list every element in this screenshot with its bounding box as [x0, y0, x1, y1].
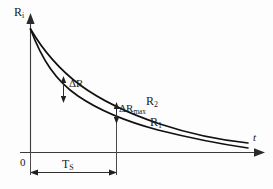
delta-r-arrow	[61, 76, 66, 103]
figure-container: Ri t 0 TS ΔR ΔRmax R2 R1	[0, 0, 273, 189]
delta-r-max-label: ΔRmax	[119, 103, 146, 114]
y-axis-label: Ri	[14, 6, 24, 18]
x-axis-label: t	[253, 132, 256, 143]
curve-r1-label: R1	[150, 116, 162, 128]
ts-label: TS	[62, 158, 74, 170]
diagram-canvas	[0, 0, 273, 189]
y-axis-arrowhead	[26, 13, 34, 24]
origin-label: 0	[20, 157, 26, 168]
delta-r-label: ΔR	[69, 78, 83, 89]
x-axis	[20, 148, 265, 156]
curve-r2-label: R2	[146, 95, 158, 107]
x-axis-arrowhead	[254, 148, 265, 156]
